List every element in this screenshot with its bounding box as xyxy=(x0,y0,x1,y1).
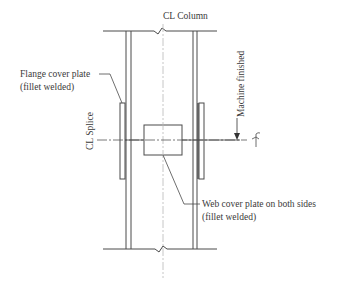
cl-column-label: CL Column xyxy=(163,11,208,21)
flange-cover-label-line2: (fillet welded) xyxy=(20,82,74,93)
left-flange-cover-plate xyxy=(120,103,125,179)
web-cover-leader-line xyxy=(163,155,200,204)
machine-finished-arrow-icon xyxy=(234,118,240,140)
web-cover-label-line1: Web cover plate on both sides xyxy=(202,199,316,209)
flange-cover-leader-line xyxy=(99,74,122,103)
machine-finished-label: Machine finished xyxy=(236,51,246,117)
flange-cover-label-line1: Flange cover plate xyxy=(20,69,90,79)
cl-splice-label: CL Splice xyxy=(85,112,95,150)
right-flange-cover-plate xyxy=(199,103,204,179)
top-break-line xyxy=(103,28,217,34)
web-cover-label-line2: (fillet welded) xyxy=(202,212,256,223)
finish-symbol-icon xyxy=(252,133,260,147)
bottom-break-line xyxy=(103,246,217,252)
column-splice-diagram: CL Column Flange cover plate (fillet wel… xyxy=(0,0,345,287)
